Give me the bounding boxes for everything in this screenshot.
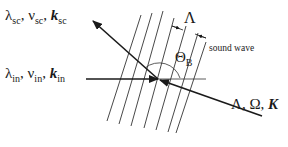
capital-k-symbol: K xyxy=(268,96,278,112)
wavelength-dimension xyxy=(172,26,206,38)
sub: sc xyxy=(58,15,66,26)
sound-params: Λ, Ω, xyxy=(231,96,268,112)
scattered-beam-label: λsc, νsc, ksc xyxy=(5,8,67,26)
sub: sc xyxy=(12,15,20,26)
sub: sc xyxy=(35,15,43,26)
caption-text: sound wave xyxy=(209,43,254,53)
sep: , xyxy=(21,7,29,23)
sep: , xyxy=(43,7,51,23)
sep: , xyxy=(42,65,50,81)
nu-symbol: ν xyxy=(28,7,35,23)
sound-wave-vector-label: Λ, Ω, K xyxy=(231,97,278,112)
sub: in xyxy=(34,73,42,84)
capital-lambda-symbol: Λ xyxy=(184,9,196,26)
sound-wavelength-label: Λ xyxy=(184,10,196,26)
sub: in xyxy=(57,73,65,84)
incident-beam-label: λin, νin, kin xyxy=(5,66,65,84)
sub: in xyxy=(12,73,20,84)
scattered-beam xyxy=(93,21,158,79)
sep: , xyxy=(20,65,28,81)
sub: B xyxy=(186,57,193,68)
sound-wave-caption: sound wave xyxy=(209,44,254,54)
sound-wavefronts xyxy=(107,11,206,133)
bragg-angle-label: ΘB xyxy=(175,50,193,68)
theta-symbol: Θ xyxy=(175,49,186,65)
